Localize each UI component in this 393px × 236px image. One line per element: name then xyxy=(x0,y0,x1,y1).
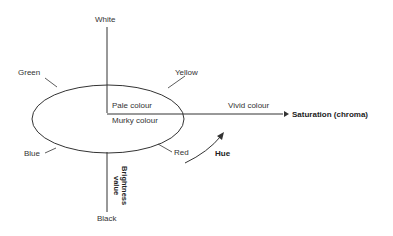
label-hue: Hue xyxy=(215,150,230,158)
label-black: Black xyxy=(97,215,117,223)
blue-leader xyxy=(45,148,56,153)
label-brightness-line1: Brightness xyxy=(120,166,128,205)
label-brightness-value: Brightness value xyxy=(112,166,128,205)
yellow-leader xyxy=(168,76,185,88)
label-yellow: Yellow xyxy=(175,69,198,77)
label-brightness-line2: value xyxy=(112,166,120,205)
label-saturation-axis: Saturation (chroma) xyxy=(292,111,368,119)
green-leader xyxy=(45,78,57,87)
hue-ellipse xyxy=(32,85,184,153)
label-pale-colour: Pale colour xyxy=(112,102,152,110)
saturation-arrowhead-icon xyxy=(284,111,289,117)
red-leader xyxy=(158,144,172,152)
label-murky-colour: Murky colour xyxy=(112,117,158,125)
label-blue: Blue xyxy=(24,150,40,158)
label-white: White xyxy=(95,16,115,24)
label-red: Red xyxy=(174,149,189,157)
label-vivid-colour: Vivid colour xyxy=(228,102,269,110)
label-green: Green xyxy=(18,69,40,77)
